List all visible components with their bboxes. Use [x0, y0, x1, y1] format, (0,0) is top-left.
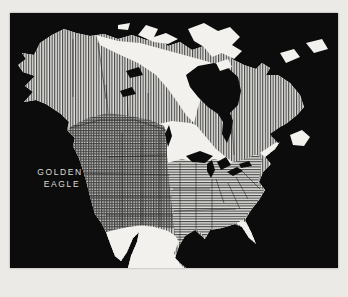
range-map-panel: GOLDEN EAGLE	[10, 13, 338, 268]
scanned-page: GOLDEN EAGLE	[0, 0, 348, 297]
north-america-range-map: GOLDEN EAGLE	[10, 13, 338, 268]
species-label-line2: EAGLE	[44, 179, 80, 189]
species-label-line1: GOLDEN	[37, 167, 83, 177]
